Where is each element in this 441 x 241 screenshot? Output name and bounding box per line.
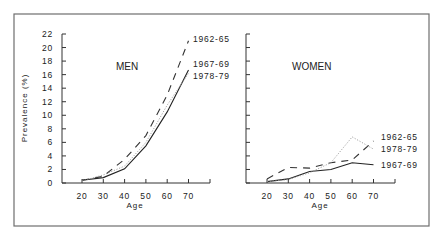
y-tick-label: 4	[47, 151, 53, 161]
panel-title-women: WOMEN	[292, 61, 331, 72]
series-line-women-1962-65	[267, 141, 374, 179]
series-label-men-1978-79: 1978-79	[193, 71, 230, 81]
x-axis-label-women: Age	[311, 201, 328, 210]
panel-men: MEN Age 1962-65 1967-69 1978-79 02468101…	[42, 29, 230, 210]
x-tick-label-men: 50	[140, 191, 151, 201]
y-tick-label: 16	[42, 70, 53, 80]
x-tick-label-men: 40	[119, 191, 130, 201]
x-axis-label-men: Age	[126, 201, 143, 210]
y-tick-label: 22	[42, 29, 53, 39]
x-tick-label-men: 20	[76, 191, 87, 201]
x-tick-label-women: 20	[261, 191, 272, 201]
x-tick-label-women: 60	[347, 191, 358, 201]
series-label-women-1978-79: 1978-79	[381, 144, 418, 154]
y-tick-label: 20	[42, 43, 53, 53]
y-tick-label: 6	[47, 137, 53, 147]
x-tick-label-men: 60	[162, 191, 173, 201]
y-tick-label: 8	[47, 124, 53, 134]
x-tick-label-men: 30	[98, 191, 109, 201]
series-label-women-1962-65: 1962-65	[381, 132, 418, 142]
y-tick-label: 2	[47, 164, 53, 174]
panel-title-men: MEN	[116, 61, 138, 72]
series-label-women-1967-69: 1967-69	[381, 160, 418, 170]
series-label-men-1962-65: 1962-65	[193, 34, 230, 44]
y-axis-label: Prevalence (%)	[20, 74, 29, 143]
y-tick-label: 14	[42, 83, 53, 93]
series-line-women-1978-79	[267, 137, 374, 182]
x-tick-label-women: 50	[325, 191, 336, 201]
panel-women: WOMEN Age 1962-65 1978-79 1967-69 203040…	[246, 34, 418, 210]
x-tick-label-men: 70	[183, 191, 194, 201]
x-tick-label-women: 70	[368, 191, 379, 201]
series-label-men-1967-69: 1967-69	[193, 59, 230, 69]
prevalence-chart: Prevalence (%) MEN Age 1962-65 1967-69 1…	[0, 0, 441, 241]
series-line-men-1967-69	[82, 70, 189, 180]
x-tick-label-women: 30	[283, 191, 294, 201]
y-tick-label: 12	[42, 97, 53, 107]
series-line-men-1978-79	[82, 73, 189, 181]
y-tick-label: 18	[42, 56, 53, 66]
x-tick-label-women: 40	[304, 191, 315, 201]
y-tick-label: 0	[47, 178, 53, 188]
y-tick-label: 10	[42, 110, 53, 120]
